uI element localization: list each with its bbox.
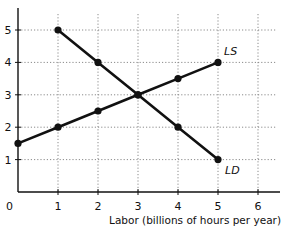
data-point bbox=[54, 26, 61, 33]
curve-label-ls: LS bbox=[224, 45, 237, 58]
data-point bbox=[14, 140, 21, 147]
x-axis-label: Labor (billions of hours per year) bbox=[109, 214, 281, 226]
y-tick-label: 3 bbox=[5, 89, 12, 102]
y-tick-label: 4 bbox=[5, 56, 12, 69]
data-point bbox=[214, 156, 221, 163]
labor-market-chart: LSLD 12345612345 0 Labor (billions of ho… bbox=[0, 0, 283, 227]
data-point bbox=[54, 124, 61, 131]
tick-labels: 12345612345 bbox=[5, 24, 262, 213]
y-tick-label: 2 bbox=[5, 121, 12, 134]
x-tick-label: 2 bbox=[95, 200, 102, 213]
data-point bbox=[174, 75, 181, 82]
series-lines: LSLD bbox=[14, 26, 239, 176]
x-tick-label: 3 bbox=[135, 200, 142, 213]
data-point bbox=[214, 59, 221, 66]
y-tick-label: 1 bbox=[5, 154, 12, 167]
x-tick-label: 4 bbox=[175, 200, 182, 213]
data-point bbox=[94, 59, 101, 66]
x-tick-label: 1 bbox=[55, 200, 62, 213]
curve-label-ld: LD bbox=[225, 164, 240, 177]
x-tick-label: 6 bbox=[255, 200, 262, 213]
curve-ls bbox=[18, 62, 218, 143]
origin-label: 0 bbox=[6, 200, 13, 213]
data-point bbox=[134, 91, 141, 98]
data-point bbox=[94, 107, 101, 114]
x-tick-label: 5 bbox=[215, 200, 222, 213]
y-tick-label: 5 bbox=[5, 24, 12, 37]
data-point bbox=[174, 124, 181, 131]
